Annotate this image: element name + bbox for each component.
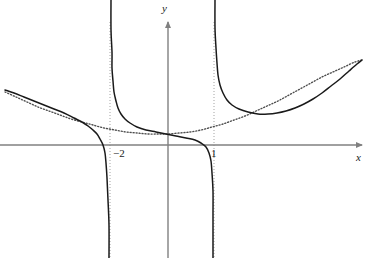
solid-curve-group bbox=[5, 0, 362, 258]
function-graph-figure: y x −2 1 bbox=[0, 0, 369, 258]
dotted-asymptote-curve-path bbox=[5, 60, 362, 134]
asymptote-guide-group bbox=[110, 22, 214, 258]
x-axis-label: x bbox=[356, 152, 361, 163]
y-axis-label: y bbox=[162, 3, 167, 14]
x-tick-label-one: 1 bbox=[211, 148, 217, 159]
solid-curve-middle-branch bbox=[111, 0, 213, 258]
solid-curve-right-branch bbox=[215, 0, 362, 114]
axes-group bbox=[0, 22, 362, 258]
x-tick-label-neg2: −2 bbox=[113, 148, 125, 159]
solid-curve-left-branch bbox=[5, 90, 109, 258]
plot-canvas bbox=[0, 0, 369, 258]
